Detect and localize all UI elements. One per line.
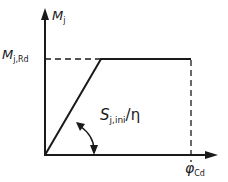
y-axis-arrowhead-icon	[41, 8, 49, 20]
moment-rotation-diagram	[0, 0, 228, 182]
x-axis-arrowhead-icon	[205, 151, 218, 159]
stiffness-symbol: S	[100, 106, 110, 124]
stiffness-subscript: j,ini	[110, 115, 126, 125]
moment-rotation-curve	[45, 59, 191, 155]
rotation-subscript: Cd	[194, 169, 205, 178]
stiffness-suffix: /η	[126, 106, 141, 124]
y-axis-label: Mj	[52, 9, 65, 22]
rotation-capacity-label: φCd	[185, 161, 205, 175]
resistance-subscript: j,Rd	[13, 55, 28, 64]
arc-arrowhead-bottom-icon	[90, 145, 98, 155]
resistance-label: Mj,Rd	[2, 48, 29, 61]
rotation-symbol: φ	[185, 160, 194, 176]
resistance-symbol: M	[2, 47, 13, 62]
stiffness-label: Sj,ini/η	[100, 108, 140, 123]
y-axis-symbol: M	[52, 8, 63, 23]
